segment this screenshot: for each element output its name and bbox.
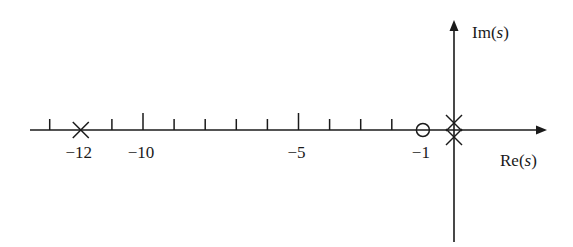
tick-label: −10	[128, 143, 155, 162]
tick-marks	[50, 113, 392, 130]
tick-label: −1	[412, 143, 430, 162]
pole-zero-plot: −12−10−5−1 Im(s) Re(s)	[0, 0, 573, 247]
imag-axis-label: Im(s)	[472, 23, 509, 42]
tick-label: −12	[66, 143, 93, 162]
real-axis-arrow-icon	[536, 126, 547, 135]
imag-axis-arrow-icon	[450, 20, 459, 31]
tick-label: −5	[287, 143, 305, 162]
real-axis-label: Re(s)	[500, 151, 537, 170]
tick-labels: −12−10−5−1	[66, 143, 430, 162]
